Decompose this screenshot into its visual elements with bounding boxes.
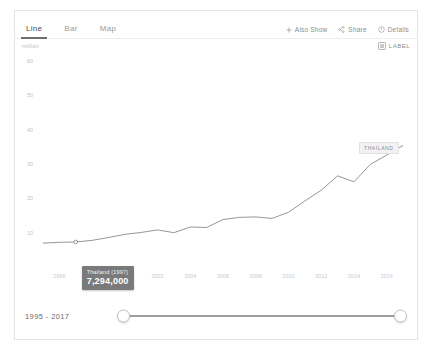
year-range-control: 1995 - 2017 (15, 303, 417, 329)
label-toggle-text: LABEL (389, 43, 410, 49)
tooltip-value: 7,294,000 (87, 276, 129, 286)
x-axis-tick: 2002 (151, 273, 163, 279)
tooltip-title: Thailand (1997) (87, 269, 129, 275)
axis-tick-labels: 1020304050601996199820002002200420062008… (21, 55, 411, 287)
x-axis-tick: 1996 (53, 273, 65, 279)
info-icon (378, 26, 385, 33)
x-axis-tick: 2006 (217, 273, 229, 279)
slider-handle-end[interactable] (394, 310, 407, 323)
chart-header: million LABEL (15, 39, 417, 55)
x-axis-tick: 2010 (282, 273, 294, 279)
details-button[interactable]: Details (378, 26, 409, 33)
also-show-button[interactable]: Also Show (286, 26, 328, 33)
x-axis-tick: 2014 (348, 273, 360, 279)
chart-widget: Line Bar Map Also Show (14, 10, 418, 340)
plus-icon (286, 27, 292, 33)
y-axis-tick: 30 (27, 161, 33, 167)
x-axis-tick: 2012 (315, 273, 327, 279)
x-axis-tick: 2008 (250, 273, 262, 279)
checkbox-icon (378, 42, 386, 50)
share-icon (338, 26, 345, 33)
chart-type-tabs: Line Bar Map (15, 11, 127, 38)
y-axis-tick: 60 (27, 58, 33, 64)
y-axis-tick: 10 (27, 230, 33, 236)
x-axis-tick: 2016 (381, 273, 393, 279)
series-label-thailand: THAILAND (359, 142, 399, 154)
chart-plot-area: 1020304050601996199820002002200420062008… (21, 55, 411, 287)
also-show-label: Also Show (295, 26, 328, 33)
slider-handle-start[interactable] (117, 310, 130, 323)
toolbar-actions: Also Show Share (286, 26, 417, 38)
year-range-text: 1995 - 2017 (25, 312, 117, 321)
widget-toolbar: Line Bar Map Also Show (15, 11, 417, 39)
y-axis-tick: 50 (27, 92, 33, 98)
y-axis-tick: 20 (27, 195, 33, 201)
year-range-slider[interactable] (117, 310, 407, 322)
y-axis-tick: 40 (27, 127, 33, 133)
slider-track[interactable] (125, 315, 399, 317)
x-axis-tick: 2004 (184, 273, 196, 279)
tab-map[interactable]: Map (89, 24, 127, 38)
data-tooltip: Thailand (1997) 7,294,000 (82, 266, 134, 290)
share-button[interactable]: Share (338, 26, 366, 33)
tab-bar[interactable]: Bar (53, 24, 88, 38)
tab-line[interactable]: Line (15, 24, 53, 38)
label-toggle[interactable]: LABEL (378, 42, 410, 50)
share-label: Share (348, 26, 366, 33)
details-label: Details (388, 26, 409, 33)
y-axis-unit-label: million (22, 43, 39, 49)
